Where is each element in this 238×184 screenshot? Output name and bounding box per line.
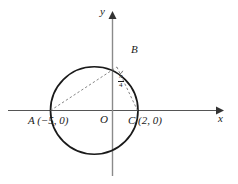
y-axis-label: y [100, 6, 105, 17]
angle-denominator: 4 [118, 82, 124, 89]
point-c-label: C (2, 0) [128, 115, 162, 126]
angle-numerator: π [118, 73, 124, 80]
y-axis-arrowhead [109, 11, 117, 19]
point-a-label: A (−5, 0) [28, 115, 69, 126]
point-b-label: B [131, 44, 138, 55]
origin-label: O [100, 114, 108, 125]
geometry-canvas [0, 0, 238, 184]
segment-a-to-b [51, 67, 117, 111]
geometry-figure: y x O A (−5, 0) B C (2, 0) π 4 [0, 0, 238, 184]
angle-fraction-label: π 4 [118, 73, 124, 90]
x-axis-label: x [218, 113, 223, 124]
